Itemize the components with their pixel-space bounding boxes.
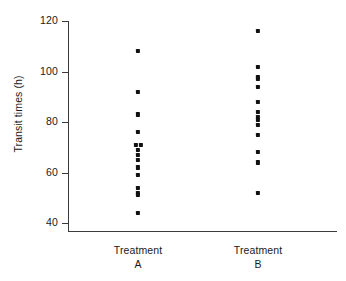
y-tick-label: 40 bbox=[24, 216, 58, 228]
x-axis-line bbox=[68, 231, 337, 232]
data-point bbox=[256, 77, 260, 81]
y-axis-line bbox=[68, 21, 69, 232]
y-tick-mark bbox=[62, 122, 68, 123]
y-tick-mark bbox=[62, 223, 68, 224]
x-axis-group-label: TreatmentA bbox=[78, 243, 198, 271]
data-point bbox=[256, 133, 260, 137]
data-point bbox=[136, 49, 140, 53]
data-point bbox=[256, 110, 260, 114]
y-axis-title: Transit times (h) bbox=[12, 49, 24, 179]
data-point bbox=[256, 160, 260, 164]
data-point bbox=[256, 64, 260, 68]
data-point bbox=[136, 153, 140, 157]
data-point bbox=[136, 90, 140, 94]
x-axis-group-label-line1: Treatment bbox=[234, 244, 282, 256]
y-tick-label: 60 bbox=[24, 166, 58, 178]
x-axis-group-label-line1: Treatment bbox=[114, 244, 162, 256]
data-point bbox=[138, 143, 142, 147]
x-axis-group-label-line2: A bbox=[78, 257, 198, 271]
y-tick-label: 100 bbox=[24, 65, 58, 77]
data-point bbox=[136, 211, 140, 215]
data-point bbox=[136, 130, 140, 134]
data-point bbox=[256, 29, 260, 33]
data-point bbox=[256, 191, 260, 195]
data-point bbox=[256, 117, 260, 121]
dot-plot-figure: Transit times (h) 406080100120 Treatment… bbox=[0, 0, 346, 281]
y-tick-mark bbox=[62, 72, 68, 73]
data-point bbox=[136, 158, 140, 162]
plot-area: Transit times (h) 406080100120 Treatment… bbox=[0, 0, 346, 281]
data-point bbox=[136, 173, 140, 177]
y-tick-label: 80 bbox=[24, 115, 58, 127]
y-tick-mark bbox=[62, 21, 68, 22]
data-point bbox=[136, 112, 140, 116]
data-point bbox=[256, 122, 260, 126]
data-point bbox=[256, 150, 260, 154]
data-point bbox=[256, 100, 260, 104]
x-axis-group-label: TreatmentB bbox=[198, 243, 318, 271]
data-point bbox=[136, 165, 140, 169]
x-axis-group-label-line2: B bbox=[198, 257, 318, 271]
data-point bbox=[136, 148, 140, 152]
y-tick-label: 120 bbox=[24, 14, 58, 26]
data-point bbox=[133, 143, 137, 147]
data-point bbox=[256, 85, 260, 89]
data-point bbox=[136, 186, 140, 190]
data-point bbox=[136, 193, 140, 197]
y-tick-mark bbox=[62, 173, 68, 174]
